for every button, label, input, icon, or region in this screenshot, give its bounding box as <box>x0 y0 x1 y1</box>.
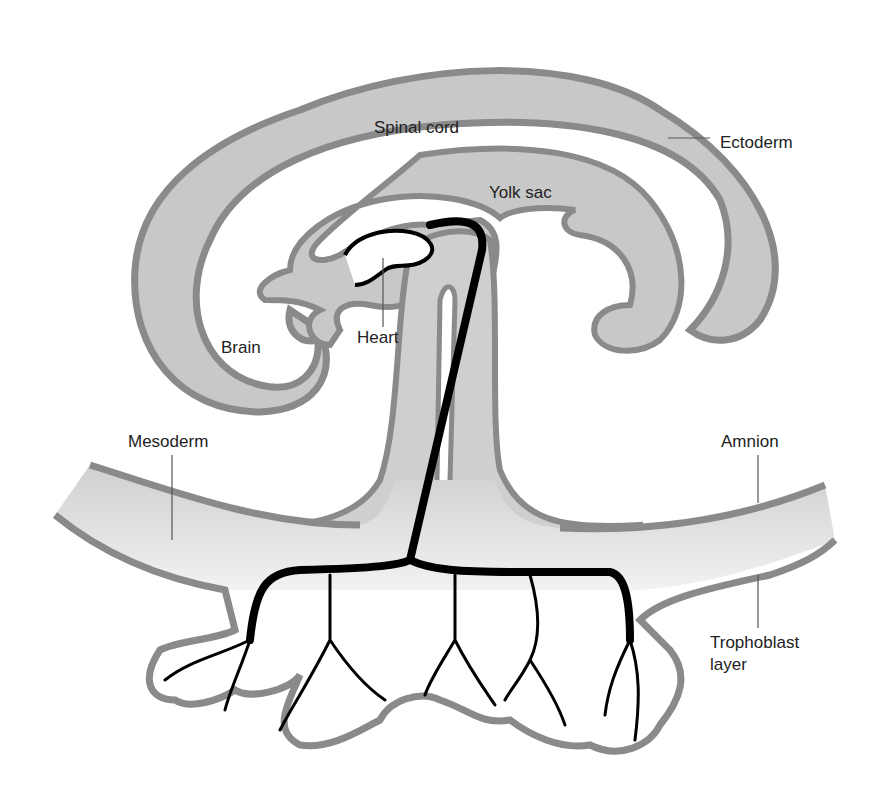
label-yolk-sac: Yolk sac <box>489 183 552 203</box>
label-spinal-cord: Spinal cord <box>374 118 459 138</box>
label-heart: Heart <box>357 328 399 348</box>
label-ectoderm: Ectoderm <box>720 133 793 153</box>
label-brain: Brain <box>221 338 261 358</box>
label-trophoblast-layer: Trophoblast layer <box>710 632 799 676</box>
villus-vessels <box>165 575 638 740</box>
label-amnion: Amnion <box>721 432 779 452</box>
label-mesoderm: Mesoderm <box>128 432 208 452</box>
